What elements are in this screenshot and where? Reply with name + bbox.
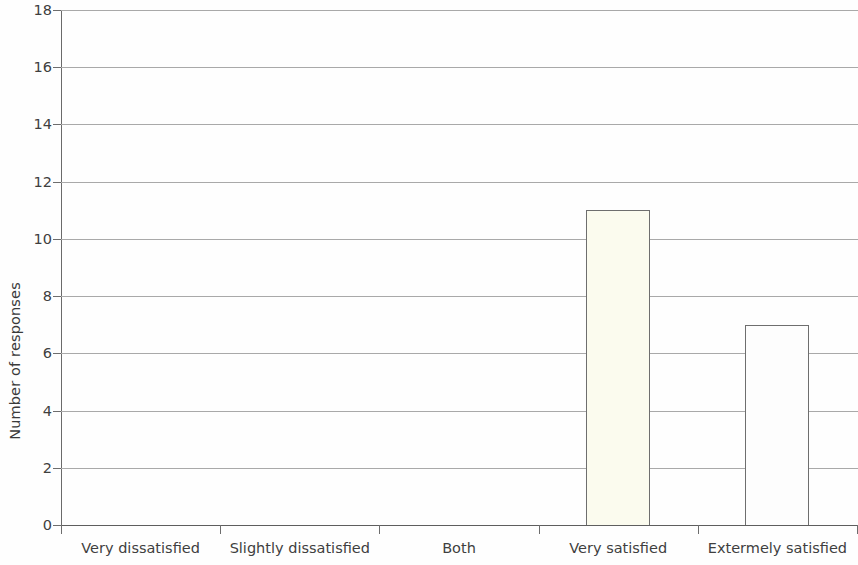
y-axis-tick-label: 16	[34, 59, 52, 75]
y-axis-tick-label: 6	[43, 345, 52, 361]
y-axis-title: Number of responses	[0, 0, 30, 565]
y-axis-tick-label: 10	[34, 231, 52, 247]
gridline	[61, 239, 858, 240]
bar	[745, 325, 809, 525]
y-axis-tick-label: 12	[34, 174, 52, 190]
x-axis-tick-label: Very satisfied	[569, 540, 667, 556]
gridline	[61, 182, 858, 183]
x-axis-tick	[220, 525, 221, 534]
x-axis-tick-label: Slightly dissatisfied	[230, 540, 370, 556]
x-axis-tick-label: Very dissatisfied	[81, 540, 200, 556]
y-axis-tick	[53, 10, 61, 11]
gridline	[61, 411, 858, 412]
y-axis-tick	[53, 182, 61, 183]
gridline	[61, 525, 858, 526]
y-axis-tick	[53, 239, 61, 240]
y-axis-tick-label: 4	[43, 403, 52, 419]
x-axis-tick	[379, 525, 380, 534]
y-axis-tick	[53, 353, 61, 354]
gridline	[61, 468, 858, 469]
y-axis-tick-label: 18	[34, 2, 52, 18]
plot-area: 024681012141618Very dissatisfiedSlightly…	[61, 10, 858, 525]
x-axis-tick	[61, 525, 62, 534]
x-axis-tick	[698, 525, 699, 534]
y-axis-tick	[53, 468, 61, 469]
y-axis-tick	[53, 525, 61, 526]
y-axis-tick	[53, 296, 61, 297]
y-axis-tick-label: 2	[43, 460, 52, 476]
y-axis-title-text: Number of responses	[7, 282, 23, 440]
bar	[586, 210, 650, 525]
y-axis-tick	[53, 411, 61, 412]
gridline	[61, 67, 858, 68]
x-axis-tick-label: Both	[442, 540, 476, 556]
bar-chart: Number of responses 024681012141618Very …	[0, 0, 858, 565]
gridline	[61, 10, 858, 11]
y-axis-tick-label: 14	[34, 116, 52, 132]
gridline	[61, 353, 858, 354]
y-axis-tick-label: 0	[43, 517, 52, 533]
y-axis-tick-label: 8	[43, 288, 52, 304]
gridline	[61, 124, 858, 125]
gridline	[61, 296, 858, 297]
y-axis-tick	[53, 124, 61, 125]
x-axis-tick-label: Extermely satisfied	[708, 540, 847, 556]
y-axis-tick	[53, 67, 61, 68]
x-axis-tick	[539, 525, 540, 534]
